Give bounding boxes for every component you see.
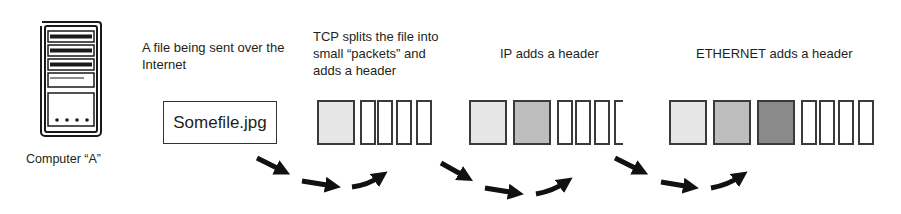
curved-arrow-icon xyxy=(0,0,901,214)
